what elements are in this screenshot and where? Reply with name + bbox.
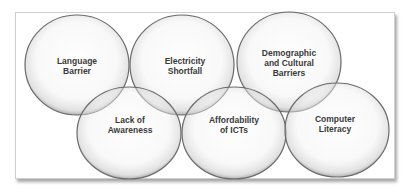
label-demographic-line2: and Cultural bbox=[262, 58, 316, 68]
label-lack-of-awareness-line2: Awareness bbox=[108, 125, 153, 135]
label-lack-of-awareness-line1: Lack of bbox=[108, 115, 153, 125]
label-demographic-line3: Barriers bbox=[262, 68, 316, 78]
label-demographic-line1: Demographic bbox=[262, 48, 316, 58]
label-lack-of-awareness: Lack of Awareness bbox=[108, 115, 153, 135]
label-electricity-shortfall-line1: Electricity bbox=[165, 56, 206, 66]
label-electricity-shortfall: Electricity Shortfall bbox=[165, 56, 206, 76]
label-affordability-line1: Affordability bbox=[209, 115, 259, 125]
label-computer-literacy: Computer Literacy bbox=[315, 114, 355, 134]
label-language-barrier-line2: Barrier bbox=[57, 66, 97, 76]
label-language-barrier: Language Barrier bbox=[57, 56, 97, 76]
label-affordability-of-icts: Affordability of ICTs bbox=[209, 115, 259, 135]
label-affordability-line2: of ICTs bbox=[209, 125, 259, 135]
label-computer-literacy-line1: Computer bbox=[315, 114, 355, 124]
label-electricity-shortfall-line2: Shortfall bbox=[165, 66, 206, 76]
label-computer-literacy-line2: Literacy bbox=[315, 124, 355, 134]
label-demographic-cultural-barriers: Demographic and Cultural Barriers bbox=[262, 48, 316, 78]
ellipse-diagram bbox=[0, 0, 420, 189]
label-language-barrier-line1: Language bbox=[57, 56, 97, 66]
